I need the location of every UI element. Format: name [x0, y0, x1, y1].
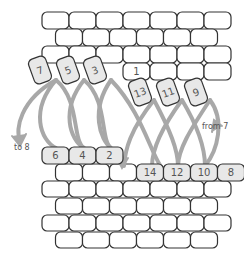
- brick: [150, 63, 177, 80]
- brick: [123, 181, 150, 197]
- brick: [204, 215, 231, 231]
- brick: [96, 12, 123, 29]
- brick: [56, 232, 83, 248]
- brick: [204, 12, 231, 29]
- thread-loop: [124, 100, 154, 166]
- brick: [123, 12, 150, 29]
- brick: [96, 181, 123, 197]
- brick: [204, 181, 231, 197]
- brick: [191, 198, 218, 214]
- brick: [110, 29, 137, 46]
- brick: [123, 215, 150, 231]
- brick: [83, 198, 110, 214]
- brick: [56, 29, 83, 46]
- brick: [191, 232, 218, 248]
- brick: [110, 198, 137, 214]
- brick: [137, 232, 164, 248]
- tile-number-14: 14: [144, 167, 157, 178]
- brick: [150, 181, 177, 197]
- brick: [150, 12, 177, 29]
- tile-9: 9: [183, 77, 209, 108]
- brick: [177, 215, 204, 231]
- tile-1: 1: [133, 66, 139, 77]
- tile-number-6: 6: [52, 150, 58, 161]
- brick: [150, 215, 177, 231]
- brick: [42, 215, 69, 231]
- brick: [204, 46, 231, 63]
- tile-number-4: 4: [79, 150, 85, 161]
- thread-loop: [99, 80, 111, 148]
- brick: [56, 198, 83, 214]
- brick: [177, 12, 204, 29]
- tile-number-8: 8: [228, 167, 234, 178]
- brick: [110, 232, 137, 248]
- brick: [164, 198, 191, 214]
- brick: [177, 46, 204, 63]
- tile-11: 11: [155, 77, 181, 108]
- brick: [42, 12, 69, 29]
- brick: [177, 181, 204, 197]
- brick: [69, 215, 96, 231]
- to-8-label: to 8: [14, 143, 30, 152]
- brick: [83, 164, 110, 181]
- tile-number-2: 2: [106, 150, 112, 161]
- brick: [191, 29, 218, 46]
- brick: [56, 164, 83, 181]
- from-7-label: from 7: [202, 122, 228, 131]
- brick: [204, 63, 231, 80]
- brick: [42, 181, 69, 197]
- brick: [83, 232, 110, 248]
- brick: [137, 29, 164, 46]
- brick: [150, 46, 177, 63]
- brick: [164, 232, 191, 248]
- brick: [177, 63, 204, 80]
- brick: [137, 198, 164, 214]
- brick: [69, 181, 96, 197]
- brick: [83, 29, 110, 46]
- brick: [69, 12, 96, 29]
- tile-number-12: 12: [171, 167, 184, 178]
- brick: [96, 215, 123, 231]
- thread-loop: [205, 100, 218, 166]
- brick: [164, 29, 191, 46]
- brick: [123, 46, 150, 63]
- tile-number-10: 10: [198, 167, 211, 178]
